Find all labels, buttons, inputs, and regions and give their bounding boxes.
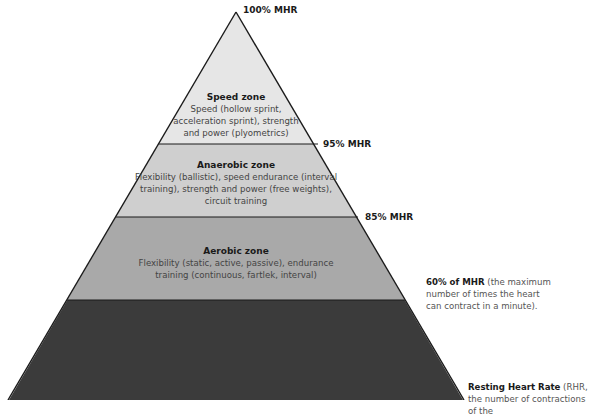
mhr-60-note: 60% of MHR (the maximum number of times … — [426, 276, 556, 312]
mhr-60-note-bold: 60% of MHR — [426, 277, 485, 287]
speed-zone-text: Speed zone Speed (hollow sprint, acceler… — [166, 91, 306, 139]
aerobic-zone-description: Flexibility (static, active, passive), e… — [121, 257, 351, 281]
threshold-100-label: 100% MHR — [243, 5, 297, 15]
aerobic-zone-text: Aerobic zone Flexibility (static, active… — [121, 245, 351, 281]
rhr-note: Resting Heart Rate (RHR, the number of c… — [468, 381, 592, 417]
anaerobic-zone-text: Anaerobic zone Flexibility (ballistic), … — [131, 159, 341, 207]
threshold-95-label: 95% MHR — [323, 139, 371, 149]
speed-zone-title: Speed zone — [166, 91, 306, 103]
anaerobic-zone-description: Flexibility (ballistic), speed endurance… — [131, 171, 341, 207]
resting-zone-band — [9, 300, 463, 400]
anaerobic-zone-title: Anaerobic zone — [131, 159, 341, 171]
speed-zone-description: Speed (hollow sprint, acceleration sprin… — [166, 103, 306, 139]
aerobic-zone-title: Aerobic zone — [121, 245, 351, 257]
rhr-note-bold: Resting Heart Rate — [468, 382, 560, 392]
threshold-85-label: 85% MHR — [365, 212, 413, 222]
